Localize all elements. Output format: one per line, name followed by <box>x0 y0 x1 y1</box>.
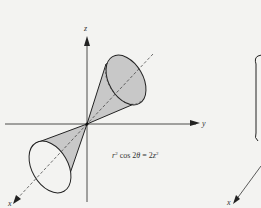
x-axis-label-2: x <box>226 198 231 207</box>
x-axis-label: x <box>7 199 12 208</box>
x-axis-arrow-icon <box>13 195 21 204</box>
y-axis-label: y <box>201 119 206 128</box>
cone-diagram: z y x r2 cos 2θ = 2z2 x <box>0 0 261 208</box>
z-axis-arrow-icon <box>84 36 90 46</box>
y-axis-arrow-icon <box>190 120 200 126</box>
z-axis-label: z <box>83 24 88 33</box>
equation-label: r2 cos 2θ = 2z2 <box>112 151 159 160</box>
cylinder-figure: x <box>226 52 261 207</box>
